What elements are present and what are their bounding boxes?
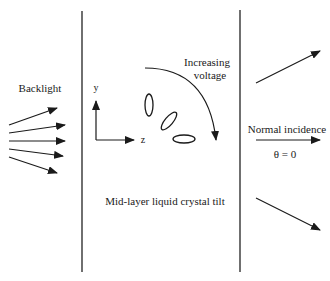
backlight-rays — [9, 108, 65, 173]
increasing-voltage-label-line2: voltage — [194, 69, 226, 81]
backlight-ray — [9, 125, 65, 133]
backlight-ray — [9, 149, 63, 156]
backlight-label: Backlight — [19, 82, 62, 94]
backlight-ray — [9, 108, 57, 125]
lc-molecules — [145, 94, 195, 143]
theta-label: θ = 0 — [274, 148, 297, 160]
lc-cell-diagram: Backlight y z Increasing voltage Mid-lay… — [0, 0, 330, 281]
z-axis-label: z — [141, 134, 146, 145]
lc-molecule-tilted — [159, 110, 179, 132]
mid-layer-label: Mid-layer liquid crystal tilt — [105, 195, 224, 207]
output-ray-upward — [256, 51, 320, 83]
coordinate-axes: y z — [94, 82, 146, 145]
backlight-ray — [9, 157, 57, 173]
increasing-voltage-label-line1: Increasing — [184, 56, 230, 68]
lc-molecule-horizontal — [173, 135, 195, 143]
y-axis-label: y — [94, 82, 99, 93]
lc-molecule-vertical — [145, 94, 153, 116]
normal-incidence-label: Normal incidence — [248, 123, 327, 135]
output-ray-downward — [256, 198, 320, 230]
